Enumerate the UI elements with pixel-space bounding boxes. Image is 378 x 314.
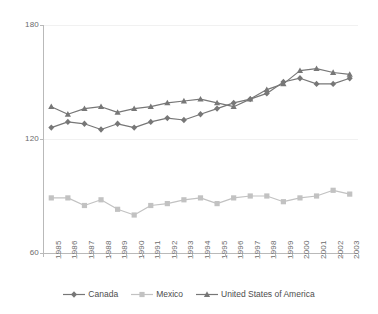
series-canada [48,75,352,133]
legend-marker-square-icon [131,290,153,299]
x-tick-mark [325,254,326,257]
y-axis-tick-labels: 18012060 [0,0,39,314]
data-point-square [198,195,203,200]
data-point-square [281,199,286,204]
x-tick-mark [93,254,94,257]
x-tick-label: 1999 [287,240,295,259]
data-point-diamond [148,119,154,125]
data-point-square [297,195,302,200]
legend-item-united-states-of-america[interactable]: United States of America [196,290,315,299]
y-tick-mark [40,139,43,140]
data-point-square [98,197,103,202]
data-point-square [115,207,120,212]
data-point-square [231,195,236,200]
line-chart: 18012060 1985198619871988198919901991199… [0,0,378,314]
plot-area [43,25,358,253]
x-tick-label: 1985 [55,240,63,259]
x-tick-mark [292,254,293,257]
data-point-diamond [181,117,187,123]
x-tick-mark [43,254,44,257]
x-tick-mark [242,254,243,257]
data-point-square [140,292,145,297]
y-tick-label: 120 [5,135,39,143]
data-point-triangle [197,96,203,102]
data-point-diamond [164,115,170,121]
series-mexico [49,188,353,218]
x-tick-mark [275,254,276,257]
y-tick-label: 180 [5,21,39,29]
y-tick-mark [40,253,43,254]
data-point-diamond [214,105,220,111]
data-point-square [49,195,54,200]
x-tick-label: 1987 [88,240,96,259]
data-point-diamond [131,124,137,130]
data-point-square [181,197,186,202]
x-tick-mark [60,254,61,257]
data-point-diamond [98,126,104,132]
data-point-diamond [198,111,204,117]
x-tick-mark [159,254,160,257]
chart-legend: CanadaMexicoUnited States of America [0,290,378,299]
legend-item-canada[interactable]: Canada [63,290,118,299]
data-point-diamond [81,121,87,127]
data-point-diamond [297,75,303,81]
legend-label: Mexico [156,290,183,299]
x-tick-mark [259,254,260,257]
legend-marker-triangle-icon [196,290,218,299]
x-tick-mark [142,254,143,257]
series-united-states-of-america [48,66,353,117]
data-point-triangle [313,66,319,72]
legend-label: Canada [88,290,118,299]
x-tick-mark [76,254,77,257]
y-tick-mark [40,25,43,26]
data-point-square [331,188,336,193]
x-tick-label: 1992 [171,240,179,259]
data-point-triangle [98,104,104,110]
data-point-triangle [48,104,54,110]
data-point-square [148,203,153,208]
series-line [51,69,349,115]
series-line [51,190,349,215]
data-point-square [82,203,87,208]
data-point-diamond [65,119,71,125]
x-tick-mark [126,254,127,257]
data-point-diamond [115,121,121,127]
legend-label: United States of America [221,290,315,299]
legend-item-mexico[interactable]: Mexico [131,290,183,299]
data-point-diamond [48,124,54,130]
legend-marker-diamond-icon [63,290,85,299]
y-tick-label: 60 [5,249,39,257]
data-point-square [132,212,137,217]
x-tick-label: 1994 [204,240,212,259]
x-tick-mark [192,254,193,257]
data-point-diamond [314,81,320,87]
data-point-square [314,193,319,198]
x-tick-mark [109,254,110,257]
data-point-diamond [71,291,77,297]
x-tick-mark [308,254,309,257]
data-point-square [347,192,352,197]
data-point-diamond [330,81,336,87]
data-point-square [264,193,269,198]
series-canvas [43,25,358,253]
data-point-square [65,195,70,200]
x-tick-mark [209,254,210,257]
data-point-square [214,201,219,206]
data-point-square [165,201,170,206]
x-tick-mark [358,254,359,257]
x-tick-label: 1997 [254,240,262,259]
x-tick-mark [225,254,226,257]
x-tick-mark [176,254,177,257]
x-tick-mark [341,254,342,257]
data-point-square [248,193,253,198]
series-line [51,78,349,129]
